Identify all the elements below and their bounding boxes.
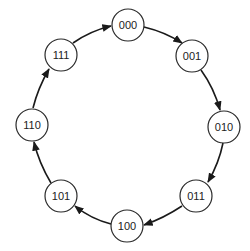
edge-010-011: [208, 143, 223, 182]
state-node-010: 010: [208, 111, 240, 143]
state-node-101: 101: [45, 180, 77, 212]
edge-000-001: [144, 27, 182, 43]
edge-101-110: [34, 142, 51, 183]
edge-110-111: [33, 69, 49, 108]
state-label: 100: [118, 220, 136, 232]
edge-001-010: [201, 70, 220, 110]
state-label: 001: [183, 50, 201, 62]
state-diagram: 000 001 010 011 100 101 110 111: [0, 0, 250, 251]
edge-111-000: [73, 26, 111, 43]
state-label: 110: [23, 119, 41, 131]
state-label: 010: [215, 121, 233, 133]
state-label: 000: [119, 19, 137, 31]
state-node-100: 100: [111, 210, 143, 242]
state-node-001: 001: [176, 40, 208, 72]
state-node-110: 110: [16, 109, 48, 141]
state-label: 011: [187, 190, 205, 202]
state-node-000: 000: [112, 9, 144, 41]
state-label: 101: [52, 190, 70, 202]
state-node-011: 011: [180, 180, 212, 212]
edge-100-101: [75, 206, 111, 224]
state-node-111: 111: [45, 39, 77, 71]
edge-011-100: [144, 206, 182, 225]
state-label: 111: [53, 49, 70, 61]
